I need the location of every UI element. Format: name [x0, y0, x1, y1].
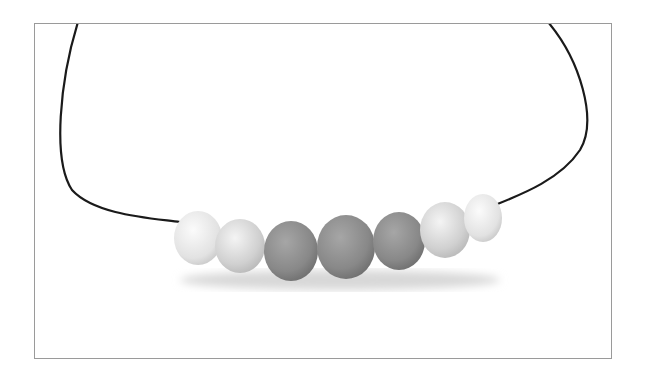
bead-7 — [464, 194, 502, 242]
bead-6 — [420, 202, 470, 258]
bead-2 — [215, 219, 265, 273]
bead-1 — [174, 211, 222, 265]
bead-5 — [373, 212, 425, 270]
cord-right — [495, 22, 587, 205]
necklace-photo — [0, 0, 653, 387]
bead-4 — [317, 215, 375, 279]
cord-left — [60, 22, 180, 222]
bead-3 — [264, 221, 318, 281]
